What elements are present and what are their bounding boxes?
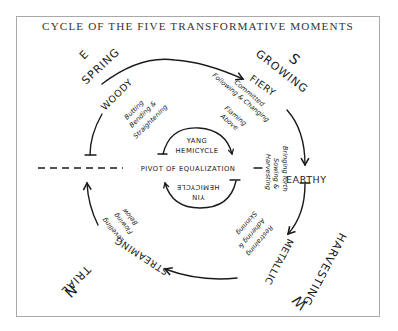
cycle-diagram: E S W N SPRING GROWING HARVESTING TRIAL … [0,0,398,331]
pivot-of-equalization: PIVOT OF EQUALIZATION [141,165,236,173]
yang-label: YANG [186,137,208,145]
direction-east: E [77,47,92,62]
direction-south: S [286,50,304,69]
phase-metallic: METALLIC [262,237,295,287]
yin-label: YIN [192,193,206,201]
earthy-note-3: Harvesting [264,154,272,190]
arc-streaming-to-woody [87,183,98,225]
yang-hemicycle-label: HEMICYCLE [175,147,218,155]
season-harvesting: HARVESTING [299,231,349,309]
earthy-note-2: Sowing & [272,158,280,189]
yin-hemicycle-label: HEMICYCLE [176,183,219,191]
arc-woody-down [90,114,102,155]
phase-earthy: EARTHY [286,174,327,185]
arc-earthy-to-metallic [288,184,305,234]
arc-metallic-to-streaming [165,269,237,279]
earthy-note-1: Bringing forth [281,146,289,192]
